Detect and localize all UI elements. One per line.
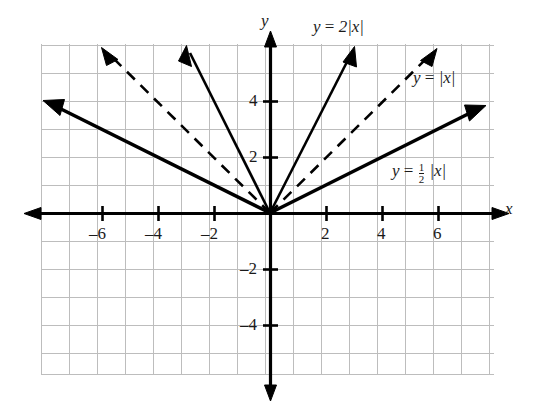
eq-abs-x-rhs: |x| (439, 68, 456, 87)
x-axis-arrow-left (24, 208, 41, 220)
x-tick-label--4: –4 (145, 224, 162, 244)
fraction-denominator: 2 (419, 173, 425, 186)
graph-figure: –6 –4 –2 2 4 6 4 2 –2 –4 y x y = 2|x| y … (0, 0, 541, 407)
eq-two-abs-x-lhs: y (313, 17, 321, 36)
curve-absx-right-arrowhead (421, 49, 438, 67)
eq-two-abs-x-rhs: 2|x| (339, 17, 364, 36)
eq-half-abs-x-lhs: y (392, 161, 400, 180)
curve-absx-left-arrowhead (102, 48, 119, 66)
x-axis-name: x (505, 199, 513, 219)
y-axis-arrow-up (265, 31, 277, 47)
y-tick-label-2: 2 (249, 147, 258, 167)
eq-half-abs-x-operator: = (404, 161, 414, 180)
y-tick-label-4: 4 (249, 91, 258, 111)
curve-halfabsx-left-branch (57, 107, 270, 213)
eq-half-abs-x-rhs: |x| (429, 161, 446, 180)
curve-2absx-left-branch (190, 53, 270, 213)
curve-halfabsx-left-arrowhead (43, 100, 65, 116)
fraction-numerator: 1 (419, 162, 425, 174)
coordinate-plane-svg (0, 0, 541, 407)
curve-halfabsx-right-arrowhead (465, 105, 487, 121)
y-tick-label--4: –4 (240, 315, 257, 335)
eq-half-abs-x-fraction: 1 2 (419, 162, 425, 186)
curve-2absx-left-arrowhead (179, 46, 192, 67)
eq-abs-x-operator: = (425, 68, 435, 87)
eq-abs-x-lhs: y (413, 68, 421, 87)
equation-label-two-abs-x: y = 2|x| (313, 17, 364, 37)
x-tick-label--2: –2 (201, 224, 218, 244)
y-tick-label--2: –2 (240, 259, 257, 279)
x-tick-label--6: –6 (89, 224, 106, 244)
y-axis-arrow-down (265, 385, 277, 401)
y-axis-name: y (261, 11, 269, 31)
equation-label-abs-x: y = |x| (413, 68, 456, 88)
curve-absx-left-branch (110, 55, 270, 213)
curve-2absx-right-branch (270, 54, 351, 213)
x-tick-label-6: 6 (433, 224, 442, 244)
x-tick-label-4: 4 (377, 224, 386, 244)
equation-label-half-abs-x: y = 1 2 |x| (392, 161, 446, 186)
eq-two-abs-x-operator: = (325, 17, 335, 36)
x-tick-label-2: 2 (321, 224, 330, 244)
